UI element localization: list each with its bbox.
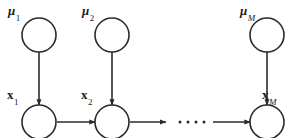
node-label-mu1: μ1 (8, 4, 20, 21)
ellipsis-dot (179, 121, 182, 124)
mu-symbol: μ (8, 3, 15, 18)
node-label-x2: x2 (81, 88, 92, 105)
edges-vertical (39, 52, 267, 106)
node-muM[interactable] (250, 18, 284, 52)
node-xM[interactable] (250, 105, 284, 138)
x-symbol: x (262, 87, 269, 102)
mu-symbol: μ (240, 3, 247, 18)
node-label-muM: μM (240, 4, 255, 21)
mu2-subscript: 2 (90, 13, 95, 23)
mu1-subscript: 1 (16, 13, 21, 23)
x1-subscript: 1 (14, 97, 19, 107)
ellipsis-dots (179, 121, 206, 124)
x2-subscript: 2 (88, 97, 93, 107)
node-label-mu2: μ2 (82, 4, 94, 21)
mu-symbol: μ (82, 3, 89, 18)
node-label-xM: xM (262, 88, 276, 105)
x-symbol: x (81, 87, 88, 102)
x-symbol: x (7, 87, 14, 102)
ellipsis-dot (203, 121, 206, 124)
node-x2[interactable] (95, 105, 129, 138)
graphical-model-figure: μ1 μ2 μM x1 x2 xM (0, 0, 299, 138)
node-label-x1: x1 (7, 88, 18, 105)
xM-subscript: M (269, 97, 277, 107)
ellipsis-dot (195, 121, 198, 124)
node-x1[interactable] (22, 105, 56, 138)
node-mu2[interactable] (95, 18, 129, 52)
ellipsis-dot (187, 121, 190, 124)
muM-subscript: M (248, 13, 256, 23)
node-mu1[interactable] (22, 18, 56, 52)
nodes-top-row (22, 18, 284, 52)
